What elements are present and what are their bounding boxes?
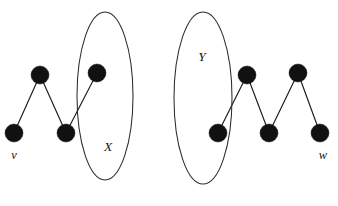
graph-node-n8	[289, 64, 307, 82]
graph-node-v	[5, 124, 23, 142]
edges-layer	[14, 73, 320, 133]
set-label-y: Y	[198, 49, 207, 64]
graph-node-n3	[57, 124, 75, 142]
vertex-label-w: w	[319, 148, 328, 162]
graph-edge-n8-w	[298, 73, 320, 133]
graph-node-w	[311, 124, 329, 142]
graph-node-n5	[209, 124, 227, 142]
labels-layer: XYvw	[11, 49, 328, 162]
graph-edge-n7-n8	[269, 73, 298, 133]
graph-edge-n5-n6	[218, 75, 247, 133]
graph-edge-n6-n7	[247, 75, 269, 133]
graph-node-n2	[31, 66, 49, 84]
graph-figure: XYvw	[0, 0, 338, 206]
set-ellipses-layer	[77, 12, 232, 184]
graph-edge-n3-n4	[66, 73, 97, 133]
nodes-layer	[5, 64, 329, 142]
graph-canvas: XYvw	[0, 0, 338, 206]
set-ellipse-y	[174, 12, 232, 184]
vertex-label-v: v	[11, 148, 17, 162]
graph-node-n6	[238, 66, 256, 84]
graph-edge-n2-n3	[40, 75, 66, 133]
set-label-x: X	[103, 139, 113, 154]
graph-node-n7	[260, 124, 278, 142]
graph-edge-v-n2	[14, 75, 40, 133]
graph-node-n4	[88, 64, 106, 82]
